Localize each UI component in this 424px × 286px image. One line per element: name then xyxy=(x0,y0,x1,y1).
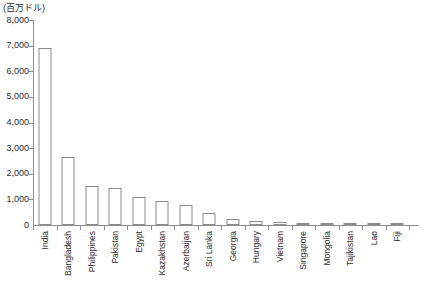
bar-slot xyxy=(339,20,363,225)
x-axis-tick xyxy=(268,226,269,230)
x-axis-tick xyxy=(339,226,340,230)
bar xyxy=(297,223,310,225)
x-axis-tick xyxy=(104,226,105,230)
bar-slot xyxy=(268,20,292,225)
bar xyxy=(250,221,263,225)
x-axis-tick-label: India xyxy=(40,231,49,249)
bar-slot xyxy=(245,20,269,225)
y-axis-tick-label: 8,000 xyxy=(1,16,29,25)
bar-slot xyxy=(127,20,151,225)
x-label-slot: Pakistan xyxy=(104,231,128,286)
x-axis-tick-label: Vietnam xyxy=(275,231,284,262)
bar-slot xyxy=(315,20,339,225)
x-label-slot: Azerbaijan xyxy=(174,231,198,286)
bar xyxy=(344,223,357,225)
x-label-slot: Kazakhstan xyxy=(151,231,175,286)
x-label-slot: Sri Lanka xyxy=(198,231,222,286)
x-axis-tick-label: Azerbaijan xyxy=(181,231,190,271)
x-label-slot: Singapore xyxy=(292,231,316,286)
x-label-slot: Georgia xyxy=(221,231,245,286)
bar xyxy=(391,223,404,225)
bar xyxy=(109,188,122,225)
y-axis-tick-label: 2,000 xyxy=(1,169,29,178)
x-axis-tick xyxy=(57,226,58,230)
x-axis-tick xyxy=(127,226,128,230)
bar-slot xyxy=(104,20,128,225)
y-axis-tick-label: 0 xyxy=(1,221,29,230)
y-axis-unit-label: (百万ドル) xyxy=(3,3,45,14)
x-axis-tick xyxy=(409,226,410,230)
x-axis-tick xyxy=(292,226,293,230)
bar xyxy=(320,223,333,225)
x-axis-tick xyxy=(221,226,222,230)
y-axis-tick-label: 6,000 xyxy=(1,67,29,76)
x-label-slot: Bangladesh xyxy=(57,231,81,286)
bar xyxy=(273,222,286,225)
y-axis-tick-label: 1,000 xyxy=(1,195,29,204)
x-axis-tick-label: Bangladesh xyxy=(64,231,73,276)
y-axis-tick-label: 4,000 xyxy=(1,118,29,127)
x-label-slot: Tajikistan xyxy=(339,231,363,286)
x-axis-tick xyxy=(80,226,81,230)
bar xyxy=(132,197,145,225)
bar-slot xyxy=(33,20,57,225)
bar-slot xyxy=(362,20,386,225)
x-axis-tick-label: Georgia xyxy=(228,231,237,261)
bar-slot xyxy=(174,20,198,225)
plot-area xyxy=(33,20,419,225)
bar xyxy=(85,186,98,225)
bar xyxy=(203,213,216,225)
x-label-slot: Philippines xyxy=(80,231,104,286)
bar-slot xyxy=(80,20,104,225)
y-axis-tick-label: 3,000 xyxy=(1,144,29,153)
x-label-slot: Fiji xyxy=(386,231,410,286)
bar-slot xyxy=(151,20,175,225)
bar-slot xyxy=(292,20,316,225)
bar-slot xyxy=(57,20,81,225)
x-axis-tick xyxy=(386,226,387,230)
x-axis-tick-label: Kazakhstan xyxy=(158,231,167,275)
x-label-slot: Hungary xyxy=(245,231,269,286)
y-axis-tick-label: 7,000 xyxy=(1,41,29,50)
y-axis-labels: 01,0002,0003,0004,0005,0006,0007,0008,00… xyxy=(0,20,29,226)
x-axis-tick-label: Mongolia xyxy=(322,231,331,266)
bar xyxy=(367,223,380,225)
x-label-slot: India xyxy=(33,231,57,286)
bar xyxy=(38,48,51,225)
x-axis-tick xyxy=(245,226,246,230)
bar-slot xyxy=(386,20,410,225)
x-label-slot: Egypt xyxy=(127,231,151,286)
bar xyxy=(62,157,75,225)
x-axis-tick xyxy=(315,226,316,230)
x-axis-tick-label: Pakistan xyxy=(111,231,120,264)
bar xyxy=(179,205,192,225)
x-axis-tick xyxy=(362,226,363,230)
x-axis-tick-label: Egypt xyxy=(134,231,143,253)
x-axis-labels: IndiaBangladeshPhilippinesPakistanEgyptK… xyxy=(33,231,419,286)
bar-slot xyxy=(221,20,245,225)
bar-chart: (百万ドル) 01,0002,0003,0004,0005,0006,0007,… xyxy=(0,0,424,286)
x-axis-tick-label: Sri Lanka xyxy=(205,231,214,267)
bar-slot xyxy=(198,20,222,225)
x-label-slot: Lao xyxy=(362,231,386,286)
x-axis-tick-label: Fiji xyxy=(393,231,402,242)
x-axis-tick xyxy=(174,226,175,230)
x-label-slot: Vietnam xyxy=(268,231,292,286)
bar xyxy=(156,201,169,225)
x-axis-tick xyxy=(198,226,199,230)
y-axis-tick-label: 5,000 xyxy=(1,92,29,101)
bar xyxy=(226,219,239,225)
x-axis-tick xyxy=(151,226,152,230)
x-axis-tick-label: Tajikistan xyxy=(346,231,355,266)
x-axis-tick-label: Hungary xyxy=(252,231,261,263)
x-axis-tick-label: Lao xyxy=(369,231,378,245)
x-axis-tick-label: Philippines xyxy=(87,231,96,272)
x-label-slot: Mongolia xyxy=(315,231,339,286)
x-axis-tick-label: Singapore xyxy=(299,231,308,270)
x-axis-tick xyxy=(33,226,34,230)
